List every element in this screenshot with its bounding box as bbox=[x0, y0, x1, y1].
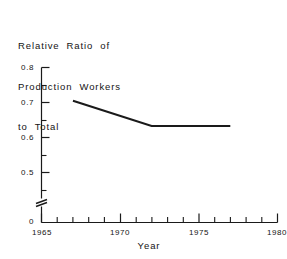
x-axis-title: Year bbox=[119, 240, 179, 251]
data-series-line bbox=[73, 101, 230, 126]
x-major-ticks bbox=[42, 214, 278, 223]
y-tick-label-0_5: 0.5 bbox=[8, 168, 34, 177]
x-minor-ticks bbox=[57, 217, 262, 223]
y-tick-label-0_8: 0.8 bbox=[8, 63, 34, 72]
x-tick-label-1975: 1975 bbox=[179, 228, 219, 237]
y-tick-label-0: 0 bbox=[8, 217, 34, 226]
plot-canvas bbox=[0, 0, 287, 259]
x-tick-label-1970: 1970 bbox=[100, 228, 140, 237]
y-axis-break-icon bbox=[36, 200, 47, 207]
x-tick-label-1980: 1980 bbox=[257, 228, 287, 237]
y-tick-label-0_6: 0.6 bbox=[8, 133, 34, 142]
chart-figure: Relative Ratio of Production Workers to … bbox=[0, 0, 287, 259]
y-tick-label-0_7: 0.7 bbox=[8, 98, 34, 107]
x-tick-label-1965: 1965 bbox=[22, 228, 62, 237]
